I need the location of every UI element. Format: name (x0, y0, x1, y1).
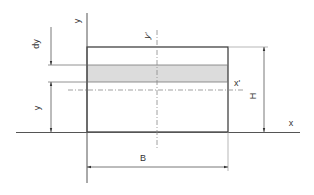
dy-label: dy (31, 39, 41, 49)
x-prime-axis-label: x' (234, 78, 241, 88)
x-axis-label: x (289, 118, 294, 128)
width-label-b: B (140, 153, 146, 163)
cross-section-diagram: y y' x x' B H dy y (0, 0, 314, 195)
shaded-strip-dy (87, 65, 228, 82)
height-label-h: H (248, 93, 258, 100)
y-offset-label: y (32, 105, 42, 110)
y-axis-label: y (72, 18, 82, 23)
cross-section-rectangle (87, 47, 228, 132)
y-prime-axis-label: y' (142, 31, 154, 41)
